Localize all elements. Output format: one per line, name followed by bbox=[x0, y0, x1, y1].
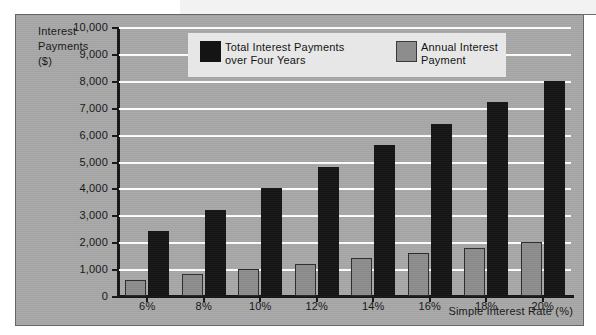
legend-label-annual: Annual Interest Payment bbox=[421, 41, 498, 67]
y-tick-mark bbox=[112, 269, 118, 271]
y-tick-mark bbox=[112, 81, 118, 83]
page-top-margin bbox=[180, 0, 596, 15]
bar-total-interest bbox=[148, 231, 169, 296]
page-left-margin bbox=[0, 0, 14, 335]
y-tick-mark bbox=[112, 108, 118, 110]
y-tick-label: 8,000 bbox=[79, 75, 108, 87]
y-tick-label: 1,000 bbox=[79, 263, 108, 275]
bar-total-interest bbox=[544, 81, 565, 296]
y-tick-mark bbox=[112, 215, 118, 217]
x-tick-label: 14% bbox=[345, 300, 402, 312]
y-tick-label: 0 bbox=[102, 290, 108, 302]
bar-annual-interest bbox=[182, 274, 203, 296]
y-axis-title: Interest Payments ($) bbox=[38, 24, 133, 69]
legend-item-total: Total Interest Payments over Four Years bbox=[200, 41, 345, 67]
bar-annual-interest bbox=[521, 242, 542, 296]
bar-annual-interest bbox=[125, 280, 146, 296]
bar-annual-interest bbox=[351, 258, 372, 296]
bar-group: 20% bbox=[515, 27, 572, 296]
bar-annual-interest bbox=[295, 264, 316, 296]
y-tick-mark bbox=[112, 242, 118, 244]
page-bottom-margin bbox=[0, 326, 596, 335]
x-axis-title: Simple Interest Rate (%) bbox=[448, 305, 573, 317]
bar-annual-interest bbox=[408, 253, 429, 296]
bar-annual-interest bbox=[238, 269, 259, 296]
y-tick-label: 4,000 bbox=[79, 182, 108, 194]
bar-annual-interest bbox=[464, 248, 485, 296]
legend-item-annual: Annual Interest Payment bbox=[396, 41, 498, 67]
legend-label-total: Total Interest Payments over Four Years bbox=[225, 41, 345, 67]
y-tick-label: 5,000 bbox=[79, 156, 108, 168]
bar-total-interest bbox=[374, 145, 395, 296]
y-tick-mark bbox=[112, 162, 118, 164]
y-tick-mark bbox=[112, 188, 118, 190]
y-tick-mark bbox=[112, 296, 118, 298]
x-tick-label: 10% bbox=[232, 300, 289, 312]
bar-total-interest bbox=[431, 124, 452, 296]
legend-swatch-total-icon bbox=[200, 41, 221, 62]
y-tick-mark bbox=[112, 135, 118, 137]
y-tick-label: 2,000 bbox=[79, 236, 108, 248]
y-tick-label: 6,000 bbox=[79, 129, 108, 141]
chart-legend: Total Interest Payments over Four Years … bbox=[188, 33, 506, 77]
bar-total-interest bbox=[205, 210, 226, 296]
bar-total-interest bbox=[318, 167, 339, 296]
bar-total-interest bbox=[261, 188, 282, 296]
y-tick-label: 7,000 bbox=[79, 102, 108, 114]
figure-container: Interest Payments ($) Simple Interest Ra… bbox=[0, 0, 596, 335]
y-tick-label: 3,000 bbox=[79, 209, 108, 221]
x-tick-label: 6% bbox=[119, 300, 176, 312]
x-tick-label: 8% bbox=[176, 300, 233, 312]
bar-total-interest bbox=[487, 102, 508, 296]
x-tick-label: 12% bbox=[289, 300, 346, 312]
chart-panel: Interest Payments ($) Simple Interest Ra… bbox=[15, 14, 584, 326]
legend-swatch-annual-icon bbox=[396, 41, 417, 62]
